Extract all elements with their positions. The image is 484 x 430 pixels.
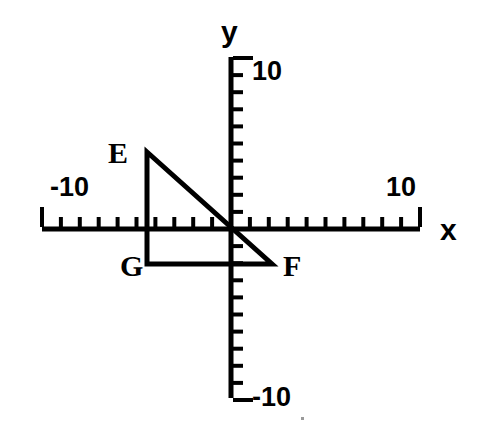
vertex-label-e: E — [108, 136, 128, 169]
scan-speck — [301, 417, 304, 420]
y-axis-tick-label-pos10: 10 — [252, 56, 282, 86]
x-axis-tick-label-neg10: -10 — [50, 172, 89, 202]
y-axis-tick-label-neg10: -10 — [252, 382, 291, 412]
x-axis-tick-label-pos10: 10 — [386, 172, 416, 202]
vertex-label-f: F — [283, 249, 301, 282]
vertex-label-g: G — [120, 249, 143, 282]
y-axis-label: y — [221, 15, 238, 48]
coordinate-plane-figure: -10 10 x 10 -10 y E F G — [0, 0, 484, 430]
x-axis-label: x — [440, 213, 457, 246]
